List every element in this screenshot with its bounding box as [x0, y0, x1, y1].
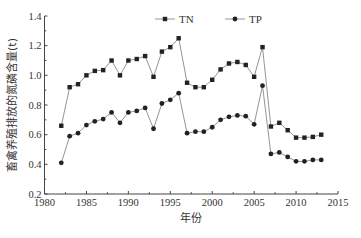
y-tick-label: 0.8: [28, 100, 41, 111]
data-point: [302, 159, 307, 164]
chart-legend: TNTP: [155, 13, 262, 25]
data-point: [109, 58, 113, 62]
legend-marker: [163, 17, 167, 21]
data-point: [143, 54, 147, 58]
data-point: [235, 60, 239, 64]
data-point: [227, 61, 231, 65]
data-point: [76, 82, 80, 86]
x-tick-label: 2000: [202, 197, 223, 208]
x-tick-label: 2005: [244, 197, 265, 208]
data-point: [134, 109, 139, 114]
data-point: [168, 45, 172, 49]
data-point: [294, 159, 299, 164]
data-point: [118, 120, 123, 125]
x-tick-label: 1980: [34, 197, 55, 208]
line-chart: 0.20.40.60.81.01.21.41980198519901995200…: [0, 0, 361, 238]
data-point: [59, 160, 64, 165]
data-point: [218, 67, 222, 71]
data-point: [243, 114, 248, 119]
data-point: [143, 106, 148, 111]
data-point: [151, 75, 155, 79]
chart-axes: 0.20.40.60.81.01.21.41980198519901995200…: [28, 11, 348, 209]
y-tick-label: 1.2: [28, 40, 41, 51]
data-point: [59, 124, 63, 128]
data-point: [319, 132, 323, 136]
data-point: [302, 135, 306, 139]
series-line: [61, 86, 321, 163]
y-tick-label: 0.6: [28, 129, 41, 140]
data-point: [185, 81, 189, 85]
data-point: [285, 128, 289, 132]
data-point: [269, 152, 274, 157]
data-point: [311, 135, 315, 139]
data-point: [126, 110, 131, 115]
data-point: [252, 122, 257, 127]
data-point: [76, 131, 81, 136]
data-point: [269, 124, 273, 128]
data-point: [109, 110, 114, 115]
data-point: [84, 123, 89, 128]
y-axis-title: 畜禽养殖排放的氮磷含量(t): [5, 38, 19, 172]
data-point: [101, 117, 106, 122]
data-point: [277, 121, 281, 125]
data-point: [235, 113, 240, 118]
data-point: [67, 85, 71, 89]
data-point: [193, 85, 197, 89]
data-point: [227, 114, 232, 119]
legend-item-tp: TP: [225, 13, 262, 25]
data-point: [176, 36, 180, 40]
data-point: [285, 155, 290, 160]
data-point: [101, 68, 105, 72]
data-point: [92, 119, 97, 124]
data-point: [277, 150, 282, 155]
data-point: [84, 73, 88, 77]
data-point: [260, 45, 264, 49]
series-line: [61, 38, 321, 137]
y-tick-label: 1.0: [28, 70, 41, 81]
x-tick-label: 1990: [118, 197, 139, 208]
data-point: [202, 85, 206, 89]
data-point: [176, 91, 181, 96]
x-tick-label: 1985: [76, 197, 97, 208]
data-point: [93, 69, 97, 73]
series-tp: [59, 83, 324, 165]
data-point: [252, 75, 256, 79]
data-point: [210, 78, 214, 82]
x-axis-title: 年份: [180, 211, 202, 225]
data-point: [260, 83, 265, 88]
data-point: [151, 126, 156, 131]
data-point: [210, 125, 215, 130]
data-point: [294, 135, 298, 139]
legend-label: TN: [179, 13, 194, 25]
chart-series: [59, 36, 324, 165]
data-point: [185, 131, 190, 136]
legend-label: TP: [249, 13, 262, 25]
legend-marker: [233, 17, 238, 22]
x-tick-label: 2010: [286, 197, 307, 208]
data-point: [67, 134, 72, 139]
y-tick-label: 0.4: [28, 159, 42, 170]
data-point: [201, 129, 206, 134]
series-tn: [59, 36, 323, 140]
data-point: [135, 57, 139, 61]
x-tick-label: 2015: [328, 197, 349, 208]
data-point: [160, 101, 165, 106]
data-point: [118, 73, 122, 77]
legend-item-tn: TN: [155, 13, 194, 25]
data-point: [244, 63, 248, 67]
data-point: [193, 129, 198, 134]
data-point: [310, 157, 315, 162]
x-tick-label: 1995: [160, 197, 181, 208]
data-point: [168, 97, 173, 102]
data-point: [126, 58, 130, 62]
y-tick-label: 1.4: [28, 11, 42, 22]
data-point: [160, 49, 164, 53]
data-point: [319, 157, 324, 162]
data-point: [218, 117, 223, 122]
